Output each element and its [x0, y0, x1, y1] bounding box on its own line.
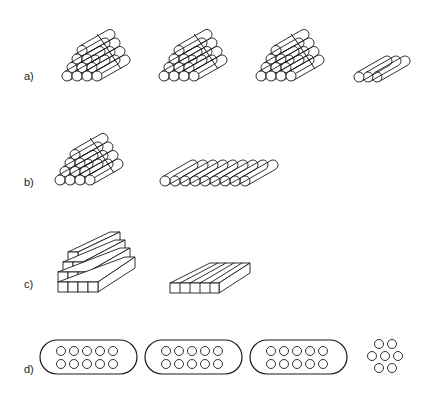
row-d-bundle-2: [145, 340, 242, 374]
row-d-bundle-3: [250, 340, 347, 374]
row-a-stack-1: [62, 29, 130, 81]
row-c-flat-layer: [170, 263, 250, 293]
row-a-stack-2: [159, 29, 227, 81]
row-b-flat-layer: [160, 0, 278, 186]
row-d-hex-group: [368, 340, 403, 373]
row-b-stack: [55, 133, 123, 185]
row-d-bundle-1: [40, 340, 137, 374]
diagram-canvas: [0, 0, 445, 403]
row-a-three-rods: [354, 56, 410, 82]
row-a-stack-3: [256, 29, 324, 81]
row-c-stepped-stack: [58, 232, 135, 292]
